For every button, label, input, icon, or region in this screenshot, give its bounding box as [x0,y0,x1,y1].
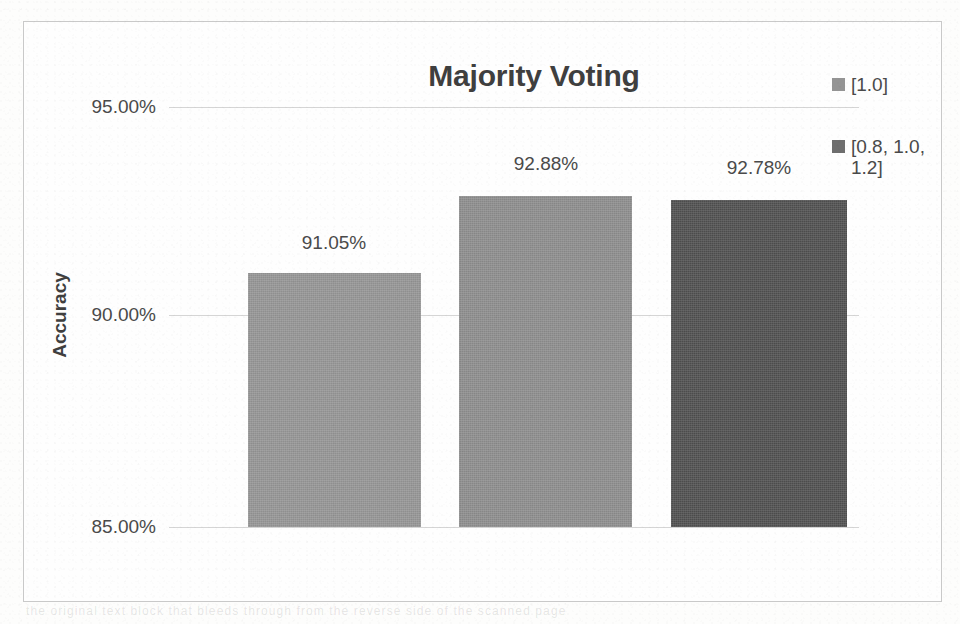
bar-texture [671,200,847,527]
bar-texture [459,196,632,527]
y-axis-tick-label-95: 95.00% [46,96,156,118]
gridline-85 [169,527,859,528]
y-axis-title: Accuracy [49,272,71,358]
bar-series-1[interactable] [248,273,421,527]
chart-title: Majority Voting [324,59,744,93]
gridline-95 [169,107,859,108]
legend-entry-label-2: [0.8, 1.0, 1.2] [851,136,947,179]
legend-swatch-icon [832,140,845,153]
y-axis-tick-label-85: 85.00% [46,516,156,538]
legend-entry-1[interactable]: [1.0] [832,74,947,95]
bar-value-label-3: 92.78% [727,157,791,179]
legend-entry-label-1: [1.0] [851,74,947,95]
plot-area: 91.05% 92.88% 92.78% [169,107,859,527]
bar-texture [248,273,421,527]
page-bleed-through-text: the original text block that bleeds thro… [26,604,926,618]
bar-series-2[interactable] [459,196,632,527]
scanned-figure-page: Majority Voting 95.00% 90.00% 85.00% Acc… [0,0,960,624]
legend-swatch-icon [832,78,845,91]
bar-value-label-2: 92.88% [514,153,578,175]
bar-value-label-1: 91.05% [302,232,366,254]
chart-frame: Majority Voting 95.00% 90.00% 85.00% Acc… [23,21,942,602]
legend-entry-2[interactable]: [0.8, 1.0, 1.2] [832,136,947,179]
bar-series-3[interactable] [671,200,847,527]
